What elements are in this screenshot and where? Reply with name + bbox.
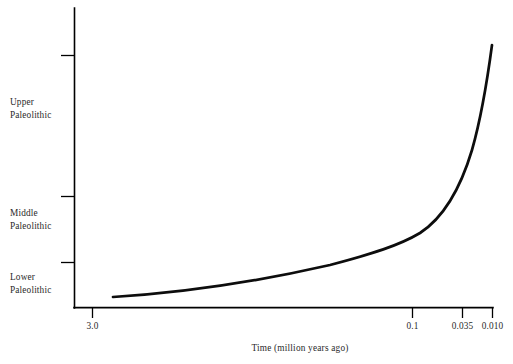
x-axis-title: Time (million years ago): [251, 343, 348, 354]
cultural-change-curve: [113, 45, 492, 297]
x-tick-label-3-0: 3.0: [86, 321, 98, 331]
x-tick-label-0-1: 0.1: [406, 321, 418, 331]
y-label-middle-line2: Paleolithic: [10, 221, 51, 231]
y-label-lower-line1: Lower: [10, 272, 36, 282]
rate-of-cultural-change-chart: Upper Paleolithic Middle Paleolithic Low…: [0, 0, 513, 364]
y-label-upper-line1: Upper: [10, 97, 35, 107]
y-label-upper-line2: Paleolithic: [10, 110, 51, 120]
y-label-lower-line2: Paleolithic: [10, 285, 51, 295]
x-tick-label-0-035: 0.035: [452, 321, 474, 331]
x-tick-label-0-010: 0.010: [482, 321, 504, 331]
chart-page: Upper Paleolithic Middle Paleolithic Low…: [0, 0, 513, 364]
y-label-middle-line1: Middle: [10, 208, 38, 218]
